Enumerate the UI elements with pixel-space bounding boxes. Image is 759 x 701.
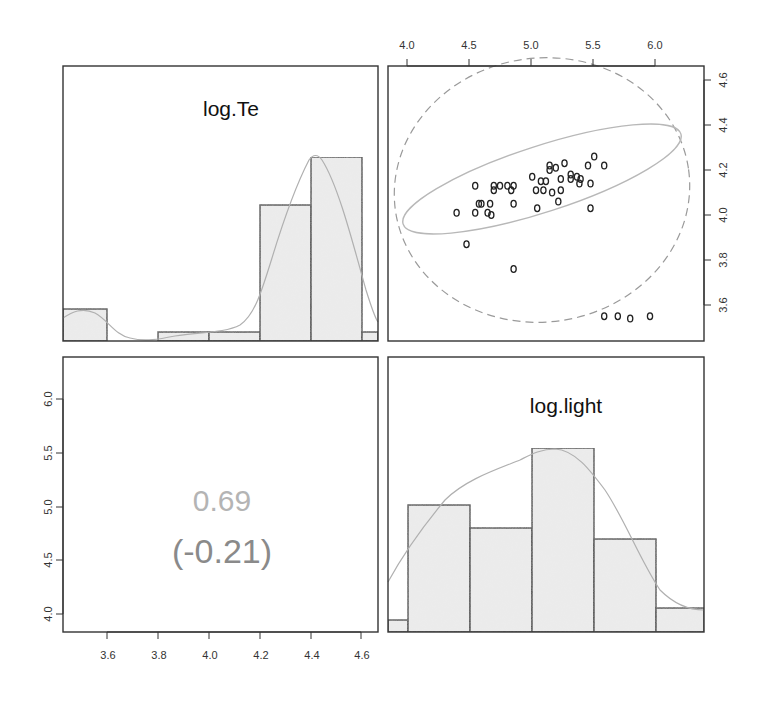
scatter-point [562, 160, 567, 167]
scatter-point [602, 313, 607, 320]
scatter-point [491, 187, 496, 194]
svg-text:4.2: 4.2 [253, 649, 268, 661]
scatter-point [602, 162, 607, 169]
top-x-axis-labels: 4.0 4.5 5.0 5.5 6.0 [399, 39, 662, 51]
svg-text:3.6: 3.6 [717, 297, 729, 312]
scatter-point [550, 189, 555, 196]
scatter-point [628, 315, 633, 322]
svg-text:4.6: 4.6 [354, 649, 369, 661]
scatter-point [647, 313, 652, 320]
scatter-point [556, 198, 561, 205]
light-histogram-bars [388, 448, 704, 632]
svg-text:4.6: 4.6 [717, 72, 729, 87]
pairs-plot: log.Te 4.0 4.5 5.0 5.5 6.0 [0, 0, 759, 701]
panel-te-histogram: log.Te [63, 66, 378, 341]
bottom-x-axis [107, 632, 361, 639]
svg-text:4.0: 4.0 [202, 649, 217, 661]
robust-correlation-value: 0.69 [193, 484, 251, 517]
svg-text:5.5: 5.5 [42, 445, 54, 460]
scatter-point [530, 173, 535, 180]
te-histogram-bars [63, 157, 378, 341]
scatter-point [535, 205, 540, 212]
scatter-point [533, 187, 538, 194]
right-y-axis [704, 80, 711, 305]
light-bar-5 [594, 539, 656, 632]
svg-text:6.0: 6.0 [647, 39, 662, 51]
scatter-panel-frame [388, 66, 704, 341]
light-bar-3 [470, 528, 532, 632]
svg-text:4.5: 4.5 [461, 39, 476, 51]
scatter-point [497, 182, 502, 189]
scatter-point [473, 209, 478, 216]
light-title: log.light [530, 394, 603, 417]
svg-text:4.0: 4.0 [717, 207, 729, 222]
svg-text:4.2: 4.2 [717, 162, 729, 177]
scatter-point [585, 162, 590, 169]
scatter-point [488, 200, 493, 207]
light-bar-2 [408, 505, 470, 632]
panel-scatter: 4.0 4.5 5.0 5.5 6.0 3.6 3.8 4.0 4.2 4.4 … [377, 39, 729, 342]
scatter-point [511, 266, 516, 273]
svg-text:4.4: 4.4 [304, 649, 319, 661]
scatter-point [553, 164, 558, 171]
svg-text:5.0: 5.0 [523, 39, 538, 51]
svg-text:5.5: 5.5 [585, 39, 600, 51]
scatter-point [588, 205, 593, 212]
left-y-axis [56, 399, 63, 614]
scatter-point [558, 176, 563, 183]
classical-correlation-value: (-0.21) [172, 532, 272, 570]
scatter-point [473, 182, 478, 189]
svg-text:3.8: 3.8 [151, 649, 166, 661]
te-bar-7 [362, 332, 378, 341]
svg-text:4.0: 4.0 [399, 39, 414, 51]
top-x-axis [407, 59, 655, 66]
te-bar-4 [209, 332, 260, 341]
scatter-point [615, 313, 620, 320]
scatter-point [568, 176, 573, 183]
svg-text:4.0: 4.0 [42, 606, 54, 621]
scatter-point [577, 180, 582, 187]
svg-text:5.0: 5.0 [42, 499, 54, 514]
light-bar-1 [388, 620, 408, 632]
scatter-point [464, 241, 469, 248]
scatter-point [592, 153, 597, 160]
scatter-point [588, 180, 593, 187]
svg-text:6.0: 6.0 [42, 391, 54, 406]
classical-ellipse [377, 39, 707, 342]
scatter-point [558, 187, 563, 194]
robust-ellipse [393, 102, 691, 255]
bottom-x-axis-labels: 3.6 3.8 4.0 4.2 4.4 4.6 [100, 649, 369, 661]
light-bar-4 [532, 448, 594, 632]
te-title: log.Te [203, 97, 259, 120]
panel-correlation: 0.69 (-0.21) 4.0 4.5 5.0 5.5 6.0 [42, 357, 378, 661]
panel-light-histogram: log.light [388, 357, 704, 632]
svg-text:4.4: 4.4 [717, 117, 729, 132]
svg-text:4.5: 4.5 [42, 552, 54, 567]
scatter-point [454, 209, 459, 216]
light-bar-6 [656, 608, 704, 632]
left-y-axis-labels: 4.0 4.5 5.0 5.5 6.0 [42, 391, 54, 621]
svg-text:3.6: 3.6 [100, 649, 115, 661]
scatter-point [541, 187, 546, 194]
scatter-point [547, 167, 552, 174]
right-y-axis-labels: 3.6 3.8 4.0 4.2 4.4 4.6 [717, 72, 729, 312]
svg-text:3.8: 3.8 [717, 252, 729, 267]
scatter-point [511, 200, 516, 207]
scatter-points [454, 153, 653, 322]
